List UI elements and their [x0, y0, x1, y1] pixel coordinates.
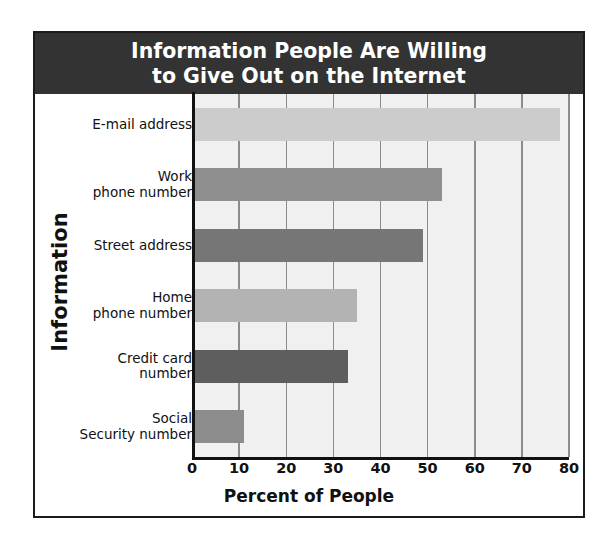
bar [192, 289, 357, 322]
plot-area [192, 94, 569, 457]
gridline-40 [380, 94, 382, 457]
y-tick-label: Credit cardnumber [55, 351, 192, 382]
plot-inner [192, 94, 569, 457]
chart-title: Information People Are Willing to Give O… [131, 39, 487, 89]
x-tick-label: 0 [172, 460, 212, 476]
x-tick-label: 20 [266, 460, 306, 476]
gridline-30 [333, 94, 335, 457]
y-axis-line [192, 92, 195, 457]
y-tick-label: Homephone number [55, 290, 192, 321]
chart-title-line-1: Information People Are Willing [131, 39, 487, 63]
chart-frame: Information People Are Willing to Give O… [33, 31, 585, 518]
x-tick-label: 50 [408, 460, 448, 476]
y-tick-label: E-mail address [55, 117, 192, 133]
gridline-60 [474, 94, 476, 457]
x-tick-label: 10 [219, 460, 259, 476]
x-tick-label: 30 [313, 460, 353, 476]
y-tick-label: Workphone number [55, 169, 192, 200]
gridline-70 [521, 94, 523, 457]
chart-title-banner: Information People Are Willing to Give O… [35, 33, 583, 94]
chart-body: Information E-mail addressWorkphone numb… [35, 94, 583, 520]
bar [192, 350, 348, 383]
x-axis-tick-labels: 01020304050607080 [192, 460, 569, 482]
gridline-80 [568, 94, 570, 457]
chart-figure: Information People Are Willing to Give O… [0, 0, 608, 543]
x-tick-label: 70 [502, 460, 542, 476]
gridline-20 [286, 94, 288, 457]
chart-title-line-2: to Give Out on the Internet [131, 64, 487, 89]
x-tick-label: 60 [455, 460, 495, 476]
bar [192, 168, 442, 201]
x-tick-label: 40 [361, 460, 401, 476]
y-axis-tick-labels: E-mail addressWorkphone numberStreet add… [55, 94, 192, 457]
gridline-50 [427, 94, 429, 457]
bar [192, 108, 560, 141]
bar [192, 410, 244, 443]
bar [192, 229, 423, 262]
y-tick-label: Street address [55, 238, 192, 254]
x-axis-title: Percent of People [35, 486, 583, 506]
gridline-10 [238, 94, 240, 457]
x-tick-label: 80 [549, 460, 589, 476]
y-tick-label: SocialSecurity number [55, 411, 192, 442]
